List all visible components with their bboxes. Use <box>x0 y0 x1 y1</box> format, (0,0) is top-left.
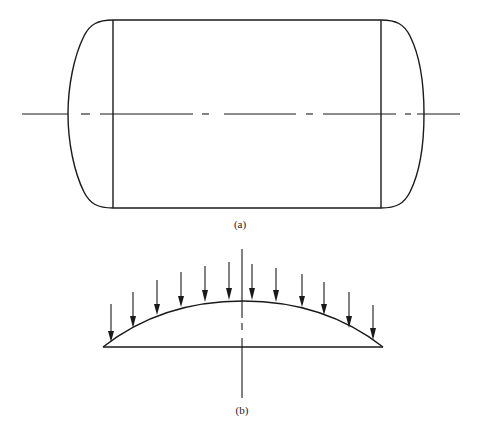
head-arc <box>103 301 383 347</box>
load-arrow <box>346 292 352 328</box>
load-arrow <box>226 262 232 300</box>
load-arrow <box>108 304 114 342</box>
load-arrow <box>130 292 136 328</box>
panel-b-head <box>103 249 383 398</box>
load-arrow <box>178 272 184 307</box>
load-arrow <box>249 264 255 300</box>
load-arrow <box>202 266 208 302</box>
figure-canvas: (a) <box>0 0 480 438</box>
load-arrow <box>370 305 376 340</box>
load-arrow <box>154 280 160 315</box>
panel-b-label: (b) <box>236 404 249 417</box>
panel-a-label: (a) <box>234 218 247 231</box>
load-arrow <box>273 268 279 302</box>
load-arrow <box>299 274 305 307</box>
load-arrow <box>321 282 327 315</box>
panel-a-vessel <box>22 20 460 208</box>
